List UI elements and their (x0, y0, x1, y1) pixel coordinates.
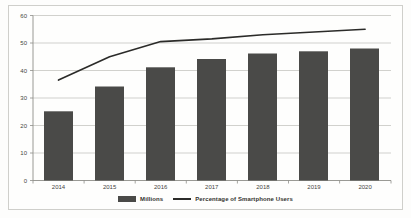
bar-swatch-icon (118, 196, 136, 202)
y-tick-label-40: 40 (20, 68, 27, 74)
x-tick-label-2016: 2016 (154, 184, 168, 190)
x-tick-label-2015: 2015 (103, 184, 117, 190)
y-tick-label-20: 20 (20, 123, 27, 129)
chart-legend: Millions Percentage of Smartphone Users (0, 192, 411, 206)
bar-2016[interactable] (146, 67, 175, 180)
bar-2017[interactable] (197, 59, 226, 181)
bar-series-millions (44, 49, 379, 181)
y-axis-tick-labels: 60 50 40 30 20 10 0 (20, 13, 27, 184)
x-tick-label-2014: 2014 (52, 184, 66, 190)
y-tick-label-30: 30 (20, 95, 27, 101)
x-tick-label-2017: 2017 (205, 184, 219, 190)
chart-figure: 60 50 40 30 20 10 0 2014 2015 2016 2017 … (0, 0, 411, 218)
x-tick-label-2018: 2018 (256, 184, 270, 190)
x-axis-tick-labels: 2014 2015 2016 2017 2018 2019 2020 (52, 184, 373, 190)
legend-label-millions: Millions (140, 196, 163, 202)
bar-2014[interactable] (44, 111, 73, 180)
line-swatch-icon (173, 198, 191, 200)
bar-2015[interactable] (95, 87, 124, 181)
x-tick-label-2019: 2019 (307, 184, 321, 190)
bar-2019[interactable] (299, 51, 328, 180)
legend-entry-percentage-smartphone-users[interactable]: Percentage of Smartphone Users (173, 196, 293, 202)
y-tick-label-10: 10 (20, 150, 27, 156)
legend-entry-millions[interactable]: Millions (118, 196, 163, 202)
y-tick-label-50: 50 (20, 40, 27, 46)
chart-plot-area: 60 50 40 30 20 10 0 2014 2015 2016 2017 … (0, 0, 411, 218)
legend-label-percentage-smartphone-users: Percentage of Smartphone Users (195, 196, 293, 202)
x-tick-label-2020: 2020 (358, 184, 372, 190)
bar-2018[interactable] (248, 54, 277, 181)
y-tick-label-0: 0 (24, 178, 28, 184)
bar-2020[interactable] (350, 49, 379, 181)
y-tick-label-60: 60 (20, 13, 27, 19)
